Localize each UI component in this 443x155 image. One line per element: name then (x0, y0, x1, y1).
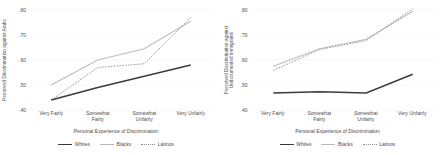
x-axis-labels-right: Very Fairly Somewhat Fairly Somewhat Unf… (250, 110, 436, 128)
x-axis-title-right: Personal Experience of Discrimination (240, 128, 436, 134)
y-axis-title-left: Perceived Discrimination against Arabs (2, 4, 16, 116)
legend-label: Latinos (379, 141, 395, 147)
plot-svg-left (28, 10, 214, 110)
y-tick-label: .70 (19, 32, 26, 38)
x-axis-title-left: Personal Experience of Discrimination (18, 128, 214, 134)
x-tick-label: Very Unfairly (389, 110, 436, 128)
series-line-whites (273, 74, 413, 93)
x-tick-label: Very Unfairly (168, 110, 215, 128)
legend-item-whites: Whites (280, 141, 312, 147)
legend-item-blacks: Blacks (100, 141, 131, 147)
legend-item-blacks: Blacks (321, 141, 352, 147)
gridlines-right (250, 10, 436, 110)
legend-item-latinos: Latinos (141, 141, 174, 147)
y-tick-label: .80 (19, 7, 26, 13)
y-tick-label: .80 (241, 7, 248, 13)
plot-area-left: .80 .70 .60 .50 .40 (28, 10, 214, 110)
legend-swatch-whites-icon (280, 143, 294, 146)
y-tick-label: .40 (19, 107, 26, 113)
y-tick-label: .60 (241, 57, 248, 63)
legend-item-whites: Whites (58, 141, 90, 147)
series-line-latinos (273, 9, 413, 71)
legend-swatch-latinos-icon (141, 143, 155, 146)
y-tick-label: .50 (241, 82, 248, 88)
series-line-whites (51, 65, 191, 100)
x-tick-label: Somewhat Fairly (75, 110, 122, 128)
y-tick-label: .60 (19, 57, 26, 63)
chart-panel-undocumented-immigrants: Perceived Discrimination against Undocum… (222, 0, 443, 155)
x-tick-label: Very Fairly (28, 110, 75, 128)
legend-label: Whites (296, 141, 311, 147)
y-tick-label: .70 (241, 32, 248, 38)
legend-item-latinos: Latinos (363, 141, 396, 147)
y-tick-label: .50 (19, 82, 26, 88)
legend-label: Blacks (116, 141, 131, 147)
y-axis-title-right: Perceived Discrimination against Undocum… (224, 4, 238, 116)
series-line-blacks (51, 21, 191, 85)
x-tick-label: Somewhat Unfairly (343, 110, 390, 128)
x-tick-label: Somewhat Unfairly (121, 110, 168, 128)
legend-label: Blacks (338, 141, 353, 147)
x-axis-labels-left: Very Fairly Somewhat Fairly Somewhat Unf… (28, 110, 214, 128)
legend-label: Latinos (158, 141, 174, 147)
legend-swatch-blacks-icon (321, 143, 335, 146)
legend-right: Whites Blacks Latinos (240, 139, 436, 149)
plot-svg-right (250, 10, 436, 110)
plot-area-right: .80 .70 .60 .50 .40 (250, 10, 436, 110)
x-tick-label: Somewhat Fairly (296, 110, 343, 128)
x-tick-label: Very Fairly (250, 110, 297, 128)
chart-panel-arabs: Perceived Discrimination against Arabs .… (0, 0, 222, 155)
legend-swatch-blacks-icon (100, 143, 114, 146)
series-line-latinos (51, 18, 191, 101)
y-tick-label: .40 (241, 107, 248, 113)
gridlines-left (28, 10, 214, 110)
figure-two-panel-chart: Perceived Discrimination against Arabs .… (0, 0, 443, 155)
legend-swatch-whites-icon (58, 143, 72, 146)
legend-label: Whites (75, 141, 90, 147)
series-line-blacks (273, 11, 413, 66)
legend-swatch-latinos-icon (363, 143, 377, 146)
legend-left: Whites Blacks Latinos (18, 139, 214, 149)
